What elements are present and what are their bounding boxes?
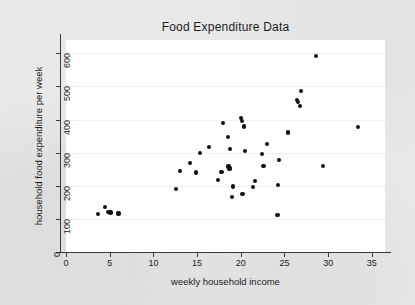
data-point [356,125,360,129]
data-point [265,142,269,146]
x-tick-label: 10 [148,258,158,268]
x-tick-mark [284,253,285,257]
data-point [298,104,302,108]
data-point [260,152,264,156]
gridline [66,120,385,121]
y-tick-mark [56,186,60,187]
data-point [253,179,257,183]
data-point [188,161,192,165]
y-tick-mark [56,120,60,121]
gridline [66,186,385,187]
data-point [228,147,232,151]
plot-area [66,40,385,252]
figure-canvas: Food Expenditure Data 05101520253035 010… [0,0,415,305]
x-tick-mark [153,253,154,257]
x-tick-label: 35 [367,258,377,268]
data-point [116,211,120,215]
data-point [240,119,244,123]
gridline [66,219,385,220]
x-tick-label: 15 [192,258,202,268]
data-point [231,184,235,188]
data-point [194,170,198,174]
data-point [108,210,112,214]
x-tick-label: 0 [63,258,68,268]
data-point [216,178,220,182]
data-point [221,121,225,125]
x-tick-mark [110,253,111,257]
y-tick-mark [56,219,60,220]
x-tick-mark [66,253,67,257]
data-point [198,151,202,155]
data-point [96,212,100,216]
y-tick-mark [56,153,60,154]
data-point [242,124,246,128]
y-tick-label: 0 [52,252,62,257]
x-tick-label: 25 [279,258,289,268]
x-tick-mark [372,253,373,257]
data-point [178,169,182,173]
y-tick-label: 300 [62,153,72,168]
y-tick-label: 200 [62,186,72,201]
data-point [174,187,178,191]
y-tick-label: 400 [62,120,72,135]
y-tick-mark [56,53,60,54]
data-point [227,166,231,170]
data-point [207,145,211,149]
y-axis-line [60,34,61,253]
x-tick-label: 20 [236,258,246,268]
data-point [219,170,223,174]
x-tick-mark [328,253,329,257]
data-point [299,89,303,93]
data-point [226,135,230,139]
y-axis-label: household food expenditure per week [33,40,44,252]
data-point [286,130,290,134]
gridline [66,153,385,154]
gridline [66,53,385,54]
scatter-plot: Food Expenditure Data 05101520253035 010… [0,0,415,305]
x-tick-label: 30 [323,258,333,268]
data-point [261,164,265,168]
y-tick-label: 500 [62,86,72,101]
data-point [275,213,279,217]
chart-title: Food Expenditure Data [66,20,385,34]
data-point [240,192,244,196]
data-point [251,185,255,189]
data-point [321,164,325,168]
x-tick-mark [197,253,198,257]
data-point [230,195,234,199]
data-point [277,158,281,162]
x-tick-mark [241,253,242,257]
data-point [103,205,107,209]
gridline [66,86,385,87]
data-point [314,54,318,58]
x-tick-label: 5 [107,258,112,268]
y-tick-mark [56,86,60,87]
y-tick-label: 600 [62,53,72,68]
y-tick-label: 100 [62,219,72,234]
x-axis-label: weekly household income [66,276,385,287]
